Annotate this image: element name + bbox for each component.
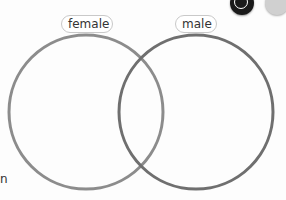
venn-diagram — [0, 0, 286, 200]
female-label: female — [61, 15, 113, 33]
male-label: male — [175, 15, 217, 33]
male-circle[interactable] — [119, 35, 273, 189]
cut-off-text: n — [0, 172, 8, 186]
